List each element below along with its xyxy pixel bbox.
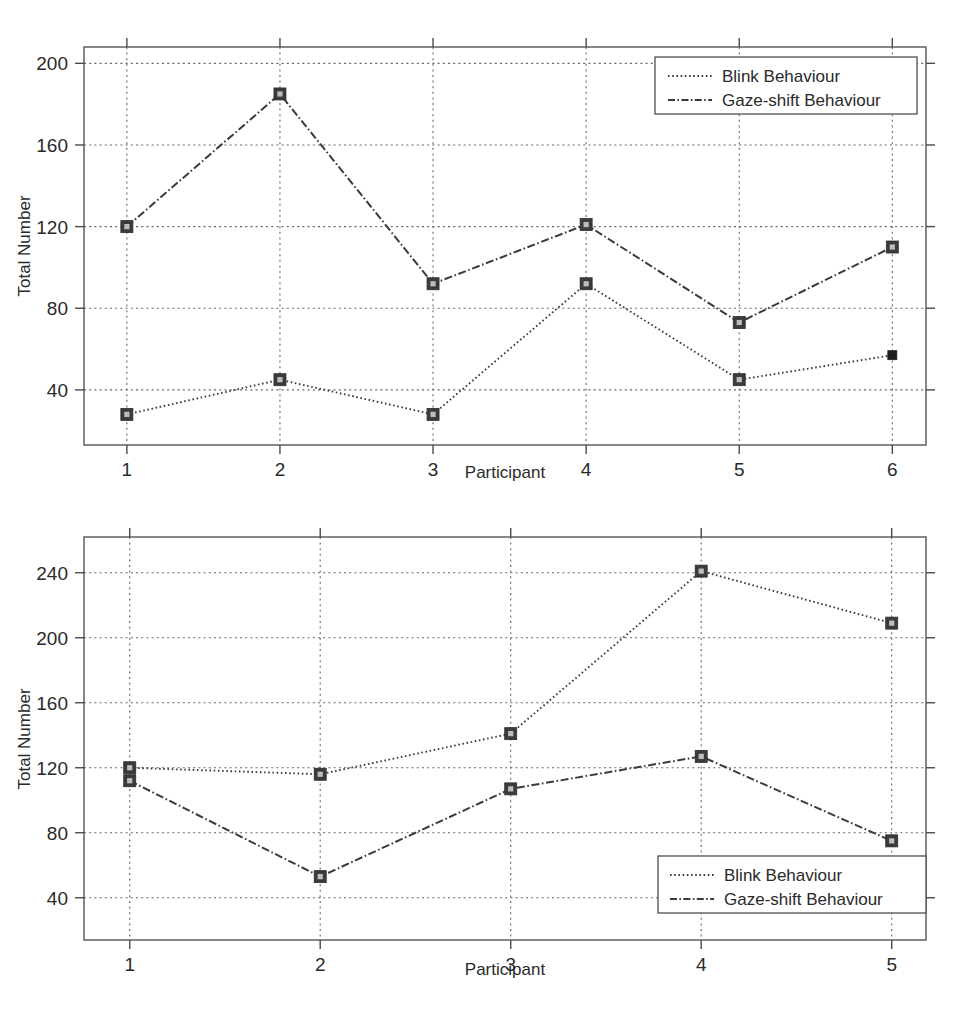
- x-axis-title: Participant: [465, 463, 546, 482]
- marker-gaze-p1-center: [127, 778, 132, 783]
- legend-label-blink: Blink Behaviour: [722, 67, 840, 86]
- bottom-chart-figure: 408012016020024012345ParticipantTotal Nu…: [0, 500, 964, 1023]
- legend-label-gaze: Gaze-shift Behaviour: [724, 890, 883, 909]
- marker-blink-p2-center: [318, 772, 323, 777]
- x-tick-label-5: 5: [886, 954, 897, 975]
- y-tick-label-200: 200: [36, 628, 68, 649]
- marker-gaze-p3-center: [430, 281, 435, 286]
- x-tick-label-3: 3: [428, 459, 439, 480]
- series-gaze: [121, 88, 898, 329]
- marker-blink-p4-center: [584, 281, 589, 286]
- y-tick-label-120: 120: [36, 758, 68, 779]
- legend: Blink BehaviourGaze-shift Behaviour: [655, 57, 917, 114]
- series-blink: [121, 278, 897, 421]
- marker-blink-p4-center: [699, 569, 704, 574]
- x-tick-label-4: 4: [696, 954, 707, 975]
- x-axis-title: Participant: [465, 960, 546, 979]
- x-tick-label-1: 1: [122, 459, 133, 480]
- marker-blink-p5-center: [737, 377, 742, 382]
- x-tick-label-1: 1: [124, 954, 135, 975]
- y-tick-label-40: 40: [47, 380, 68, 401]
- marker-blink-p1-center: [124, 412, 129, 417]
- x-tick-label-2: 2: [315, 954, 326, 975]
- marker-gaze-p5-center: [889, 838, 894, 843]
- blink-gaze-chart-top: 4080120160200123456ParticipantTotal Numb…: [0, 0, 964, 500]
- marker-gaze-p4-center: [699, 754, 704, 759]
- marker-gaze-p2-center: [277, 91, 282, 96]
- marker-blink-p1-center: [127, 765, 132, 770]
- marker-gaze-p5-center: [737, 320, 742, 325]
- marker-gaze-p1-center: [124, 224, 129, 229]
- legend-label-blink: Blink Behaviour: [724, 866, 842, 885]
- marker-blink-p5-center: [889, 621, 894, 626]
- legend: Blink BehaviourGaze-shift Behaviour: [658, 856, 926, 913]
- marker-blink-p6: [888, 351, 897, 360]
- top-chart-figure: 4080120160200123456ParticipantTotal Numb…: [0, 0, 964, 500]
- marker-blink-p3-center: [430, 412, 435, 417]
- y-axis-title: Total Number: [15, 688, 34, 789]
- y-tick-label-240: 240: [36, 563, 68, 584]
- marker-gaze-p4-center: [584, 222, 589, 227]
- y-tick-label-80: 80: [47, 298, 68, 319]
- legend-label-gaze: Gaze-shift Behaviour: [722, 91, 881, 110]
- blink-gaze-chart-bottom: 408012016020024012345ParticipantTotal Nu…: [0, 500, 964, 1023]
- marker-blink-p3-center: [508, 731, 513, 736]
- y-tick-label-80: 80: [47, 823, 68, 844]
- x-tick-label-6: 6: [887, 459, 898, 480]
- y-tick-label-120: 120: [36, 217, 68, 238]
- x-tick-label-2: 2: [275, 459, 286, 480]
- y-tick-label-160: 160: [36, 693, 68, 714]
- marker-blink-p2-center: [277, 377, 282, 382]
- y-tick-label-200: 200: [36, 53, 68, 74]
- marker-gaze-p6-center: [890, 244, 895, 249]
- series-line-gaze: [127, 94, 892, 323]
- x-tick-label-4: 4: [581, 459, 592, 480]
- marker-gaze-p2-center: [318, 874, 323, 879]
- y-tick-label-160: 160: [36, 135, 68, 156]
- x-tick-label-5: 5: [734, 459, 745, 480]
- y-tick-label-40: 40: [47, 888, 68, 909]
- marker-gaze-p3-center: [508, 786, 513, 791]
- y-axis-title: Total Number: [15, 195, 34, 296]
